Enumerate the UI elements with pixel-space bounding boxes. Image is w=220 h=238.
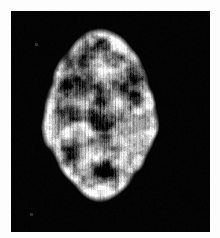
brain-scan-image: [11, 11, 210, 232]
scan-image-panel: [11, 11, 210, 232]
scan-page: axial-brain-perfusion-scan: [0, 0, 220, 238]
